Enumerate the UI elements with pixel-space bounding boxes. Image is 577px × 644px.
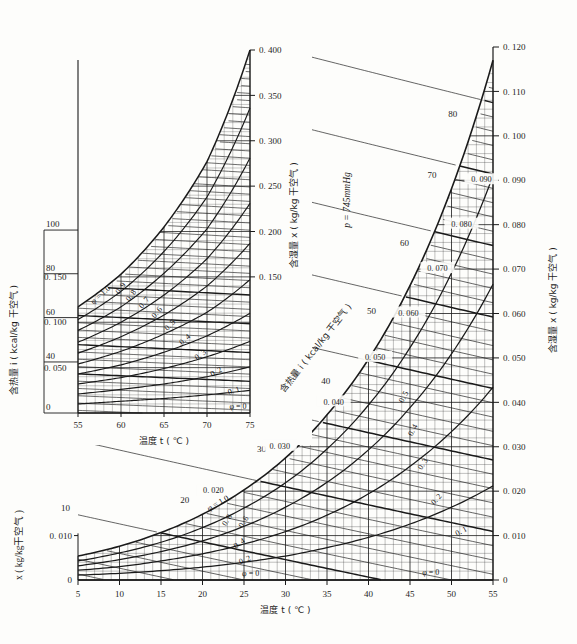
svg-text:65: 65	[160, 420, 170, 430]
pressure-label: p = 745mmHg	[342, 172, 352, 229]
main-enthalpy-label-40: 40	[321, 376, 331, 386]
main-inline-x-label: 0. 070	[427, 264, 447, 273]
svg-text:0. 350: 0. 350	[259, 91, 282, 101]
inset-left-axis-label: 含热量 i ( kcal/kg 干空气 )	[8, 285, 19, 395]
svg-text:0. 120: 0. 120	[503, 42, 526, 52]
inset-left-x-tick: 0. 100	[44, 317, 67, 327]
main-inline-x-label: 0. 020	[203, 486, 223, 495]
svg-text:0. 010: 0. 010	[503, 531, 526, 541]
svg-text:0. 070: 0. 070	[503, 264, 526, 274]
main-enthalpy-label-60: 60	[400, 238, 410, 248]
main-left-tick-0: 0	[68, 575, 73, 585]
svg-text:0. 250: 0. 250	[259, 181, 282, 191]
svg-text:75: 75	[246, 420, 256, 430]
svg-text:30: 30	[281, 589, 291, 599]
main-left-tick-0010: 0. 010	[50, 531, 73, 541]
svg-text:5: 5	[76, 589, 81, 599]
main-inline-x-label: 0. 040	[323, 398, 343, 407]
svg-text:40: 40	[364, 589, 374, 599]
svg-text:0. 090: 0. 090	[503, 175, 526, 185]
svg-text:35: 35	[323, 589, 333, 599]
inset-right-axis-label: 含湿量 x ( kg/kg 干空气 )	[288, 162, 299, 268]
svg-text:50: 50	[447, 589, 457, 599]
svg-text:70: 70	[203, 420, 213, 430]
main-inline-x-label: 0. 030	[270, 442, 290, 451]
main-inline-x-label: 0. 050	[365, 353, 385, 362]
chart-canvas: 51015202530354045505500. 0100. 0200. 030…	[0, 0, 577, 644]
inset-enthalpy-tick: 40	[46, 351, 56, 361]
svg-text:10: 10	[115, 589, 125, 599]
main-enthalpy-label-20: 20	[180, 495, 190, 505]
inset-left-x-tick: 0. 150	[44, 272, 67, 282]
main-x-axis-label: 温度 t ( ℃ )	[260, 604, 310, 615]
svg-text:0. 020: 0. 020	[503, 486, 526, 496]
svg-text:0. 080: 0. 080	[503, 220, 526, 230]
svg-text:25: 25	[240, 589, 250, 599]
svg-text:0. 030: 0. 030	[503, 442, 526, 452]
main-inline-x-label: 0. 080	[451, 220, 471, 229]
main-phi-0: φ = 0	[242, 569, 259, 578]
svg-text:55: 55	[489, 589, 499, 599]
svg-text:0. 050: 0. 050	[503, 353, 526, 363]
svg-text:20: 20	[198, 589, 208, 599]
svg-text:0. 300: 0. 300	[259, 136, 282, 146]
svg-text:45: 45	[406, 589, 416, 599]
main-enthalpy-label-50: 50	[367, 306, 377, 316]
main-enthalpy-label-10: 10	[61, 503, 71, 513]
svg-text:15: 15	[157, 589, 167, 599]
main-inline-x-label: 0. 060	[398, 309, 418, 318]
svg-text:55: 55	[74, 420, 84, 430]
inset-enthalpy-tick: 100	[46, 219, 60, 229]
psychrometric-chart-figure: 51015202530354045505500. 0100. 0200. 030…	[0, 0, 577, 644]
inset-enthalpy-tick: 60	[46, 307, 56, 317]
main-enthalpy-label-80: 80	[448, 109, 458, 119]
svg-text:0. 100: 0. 100	[503, 131, 526, 141]
main-right-axis-label: 含湿量 x ( kg/kg 干空气 )	[547, 247, 558, 353]
main-inline-x-label: 0. 090	[471, 175, 491, 184]
svg-text:0. 150: 0. 150	[259, 272, 282, 282]
svg-text:0. 040: 0. 040	[503, 398, 526, 408]
svg-text:0. 110: 0. 110	[503, 87, 526, 97]
svg-text:60: 60	[117, 420, 127, 430]
main-left-axis-label: x ( kg/kg干空气 )	[13, 510, 25, 580]
inset-enthalpy-tick: 0	[46, 402, 51, 412]
svg-text:0. 060: 0. 060	[503, 309, 526, 319]
svg-text:0. 200: 0. 200	[259, 227, 282, 237]
svg-text:0. 400: 0. 400	[259, 45, 282, 55]
svg-text:0: 0	[503, 575, 508, 585]
inset-phi-0: φ = 0	[229, 402, 246, 411]
inset-left-x-tick: 0. 050	[44, 363, 67, 373]
main-enthalpy-label-70: 70	[427, 170, 437, 180]
inset-x-axis-label: 温度 t ( ℃ )	[139, 435, 189, 446]
main-phi-r-0: φ = 0	[422, 568, 439, 577]
